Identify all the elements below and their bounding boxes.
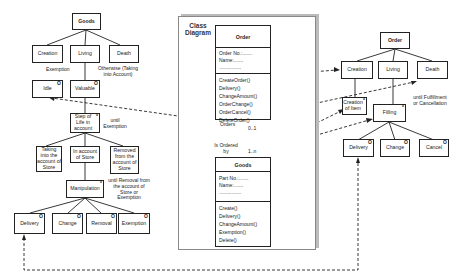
- until-exemption-label: until Exemption: [101, 118, 129, 130]
- order-class-name: Order: [216, 26, 270, 48]
- order-op-change-amount: ChangeAmount(): [219, 92, 267, 100]
- orders-role-label: Orders: [220, 122, 235, 128]
- order-root-box: Order: [380, 32, 410, 49]
- creation-of-item-box: Creation of Item*: [342, 97, 367, 115]
- right-cancel-label: Cancel: [426, 145, 442, 151]
- right-delivery-box: DeliveryO: [343, 139, 374, 157]
- history-marker-icon: O: [77, 214, 81, 219]
- left-creation-box: Creation: [32, 45, 63, 63]
- orders-multiplicity-label: 0..1: [248, 126, 256, 132]
- goods-attr-name: Name:.......: [219, 182, 267, 189]
- right-living-box: Living: [378, 61, 408, 79]
- iteration-marker-icon: *: [402, 105, 404, 110]
- idle-box: IdleO: [32, 80, 63, 98]
- until-fulfillment-label: until Fulfillment or Cancellation: [411, 95, 449, 107]
- left-change-box: ChangeO: [52, 213, 83, 234]
- history-marker-icon: O: [443, 140, 447, 145]
- until-removal-label: until Removal from the account of Store …: [108, 178, 150, 201]
- creation-of-item-label: Creation of Item: [343, 100, 363, 112]
- removed-from-account-label: Removed from the account of Store: [111, 148, 138, 172]
- goods-root-label: Goods: [78, 19, 94, 25]
- history-marker-icon: O: [111, 214, 115, 219]
- order-class-operations: CreateOrder() Delivery() ChangeAmount() …: [216, 74, 270, 126]
- order-root-label: Order: [388, 38, 402, 44]
- right-change-box: ChangeO: [380, 139, 410, 157]
- left-living-label: Living: [78, 51, 92, 57]
- left-death-label: Death: [117, 51, 131, 57]
- left-removal-box: RemovalO: [86, 213, 117, 234]
- order-class-attributes: Order No.:....... Name:....... .........…: [216, 48, 270, 74]
- goods-op-create: Create(): [219, 204, 267, 212]
- history-marker-icon: O: [39, 214, 43, 219]
- goods-op-delivery: Delivery(): [219, 212, 267, 220]
- taking-into-account-box: Taking into the account of Store: [36, 146, 62, 172]
- goods-class-attributes: Part No.:....... Name:....... ..........…: [216, 172, 270, 202]
- right-change-label: Change: [386, 145, 404, 151]
- is-ordered-by-label: Is Ordered by: [212, 143, 240, 155]
- goods-attr-more: ................: [219, 189, 267, 196]
- otherwise-label: Otherwise (Taking into Account): [95, 66, 141, 78]
- goods-class-box: Goods Part No.:....... Name:....... ....…: [215, 157, 271, 247]
- iteration-marker-icon: *: [363, 98, 365, 103]
- filling-label: Filling: [383, 110, 397, 116]
- left-removal-label: Removal: [91, 221, 111, 227]
- right-creation-label: Creation: [347, 67, 367, 73]
- left-death-box: Death: [109, 45, 139, 63]
- history-marker-icon: O: [368, 140, 372, 145]
- order-attr-order-no: Order No.:.......: [219, 50, 267, 57]
- right-creation-box: Creation: [341, 61, 373, 79]
- goods-op-exemption: Exemption(): [219, 228, 267, 236]
- idle-label: Idle: [43, 86, 51, 92]
- step-of-life-box: Step of Life in account*: [70, 113, 100, 133]
- right-death-box: Death: [417, 61, 448, 79]
- left-change-label: Change: [58, 221, 76, 227]
- class-diagram-title: Class Diagram: [185, 22, 211, 37]
- history-marker-icon: O: [404, 140, 408, 145]
- in-account-box: In account of Store: [70, 146, 100, 163]
- taking-into-account-label: Taking into the account of Store: [37, 147, 61, 171]
- right-death-label: Death: [426, 67, 440, 73]
- order-attr-more: ................: [219, 64, 267, 71]
- order-op-delivery: Delivery(): [219, 84, 267, 92]
- iteration-marker-icon: *: [96, 114, 98, 119]
- left-delivery-label: Delivery: [20, 221, 39, 227]
- order-class-box: Order Order No.:....... Name:....... ...…: [215, 25, 271, 120]
- right-delivery-label: Delivery: [349, 145, 368, 151]
- order-op-create: CreateOrder(): [219, 76, 267, 84]
- manipulation-box: Manipulation*: [66, 180, 104, 198]
- in-account-label: In account of Store: [71, 149, 99, 161]
- manipulation-label: Manipulation: [70, 186, 99, 192]
- step-of-life-label: Step of Life in account: [72, 114, 94, 132]
- goods-root-box: Goods: [72, 13, 101, 30]
- left-delivery-box: DeliveryO: [14, 213, 45, 234]
- left-exemption-label: Exemption: [122, 221, 147, 227]
- removed-from-account-box: Removed from the account of Store: [110, 146, 139, 174]
- goods-attr-part-no: Part No.:.......: [219, 175, 267, 182]
- left-creation-label: Creation: [38, 51, 58, 57]
- order-op-order-cancel: OrderCancel(): [219, 108, 267, 116]
- filling-box: Filling*: [373, 104, 406, 122]
- history-marker-icon: O: [57, 81, 61, 86]
- right-cancel-box: CancelO: [419, 139, 449, 157]
- goods-op-change-amount: ChangeAmount(): [219, 220, 267, 228]
- left-exemption-box: ExemptionO: [118, 213, 150, 234]
- valuable-label: Valuable: [75, 86, 95, 92]
- goods-class-name: Goods: [216, 158, 270, 172]
- right-living-label: Living: [386, 67, 400, 73]
- goods-class-operations: Create() Delivery() ChangeAmount() Exemp…: [216, 202, 270, 246]
- valuable-box: ValuableO: [70, 80, 100, 98]
- order-op-order-change: OrderChange(): [219, 100, 267, 108]
- is-ordered-by-multiplicity-label: 1..n: [248, 149, 256, 155]
- order-attr-name: Name:.......: [219, 57, 267, 64]
- left-living-box: Living: [70, 45, 100, 63]
- exemption-label: Exemption: [46, 67, 70, 73]
- goods-op-delete: Delete(): [219, 236, 267, 244]
- iteration-marker-icon: *: [100, 181, 102, 186]
- history-marker-icon: O: [144, 214, 148, 219]
- history-marker-icon: O: [94, 81, 98, 86]
